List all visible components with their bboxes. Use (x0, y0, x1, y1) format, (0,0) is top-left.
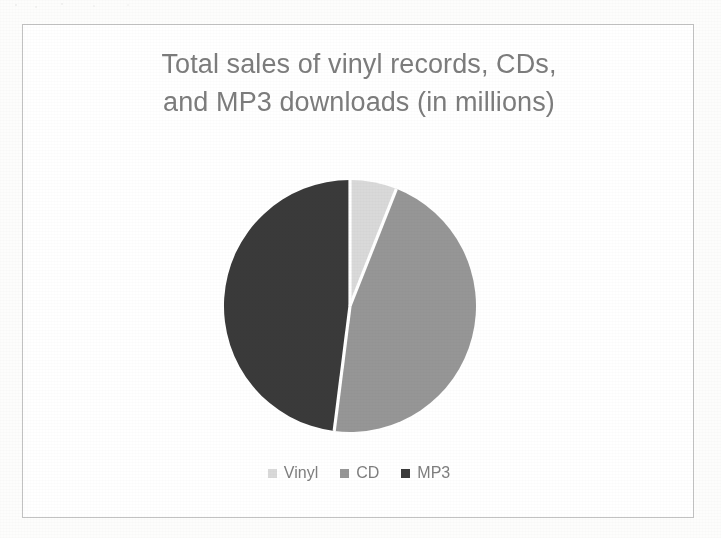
legend-item-vinyl[interactable]: Vinyl (268, 465, 318, 481)
chart-frame: Total sales of vinyl records, CDs, and M… (22, 24, 694, 518)
legend-swatch-cd-icon (340, 469, 349, 478)
legend-swatch-vinyl-icon (268, 469, 277, 478)
legend-item-mp3[interactable]: MP3 (401, 465, 450, 481)
legend-label-cd: CD (356, 465, 379, 481)
legend-label-vinyl: Vinyl (284, 465, 318, 481)
pie-chart-plot-area: Vinyl CD MP3 (23, 25, 695, 519)
legend-swatch-mp3-icon (401, 469, 410, 478)
chart-legend: Vinyl CD MP3 (23, 465, 695, 481)
scanned-page: Total sales of vinyl records, CDs, and M… (0, 0, 721, 538)
scan-artifact (10, 2, 160, 10)
pie-slice-mp3[interactable] (224, 180, 350, 431)
legend-item-cd[interactable]: CD (340, 465, 379, 481)
legend-label-mp3: MP3 (417, 465, 450, 481)
pie-chart (217, 173, 483, 439)
